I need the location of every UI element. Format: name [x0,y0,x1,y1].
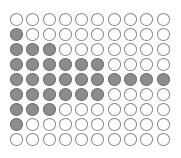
empty-circle [157,58,170,71]
empty-circle [157,43,170,56]
filled-circle [91,88,104,101]
filled-circle [10,118,23,131]
filled-circle [108,73,121,86]
empty-circle [124,88,137,101]
filled-circle [43,43,56,56]
filled-circle [91,73,104,86]
empty-circle [108,103,121,116]
empty-circle [91,133,104,146]
empty-circle [124,118,137,131]
empty-circle [75,118,88,131]
empty-circle [108,118,121,131]
filled-circle [75,73,88,86]
filled-circle [75,58,88,71]
filled-circle [10,58,23,71]
empty-circle [91,118,104,131]
empty-circle [91,28,104,41]
filled-circle [10,43,23,56]
empty-circle [59,43,72,56]
empty-circle [108,28,121,41]
empty-circle [140,43,153,56]
empty-circle [124,28,137,41]
filled-circle [26,58,39,71]
empty-circle [43,13,56,26]
filled-circle [157,73,170,86]
filled-circle [59,88,72,101]
empty-circle [26,13,39,26]
empty-circle [157,118,170,131]
empty-circle [140,133,153,146]
empty-circle [75,133,88,146]
empty-circle [59,13,72,26]
filled-circle [75,88,88,101]
empty-circle [43,28,56,41]
empty-circle [75,43,88,56]
empty-circle [157,88,170,101]
empty-circle [59,103,72,116]
empty-circle [108,88,121,101]
filled-circle [26,103,39,116]
empty-circle [157,133,170,146]
empty-circle [108,58,121,71]
empty-circle [124,133,137,146]
empty-circle [10,133,23,146]
empty-circle [157,28,170,41]
empty-circle [91,43,104,56]
filled-circle [91,58,104,71]
empty-circle [43,118,56,131]
filled-circle [43,73,56,86]
empty-circle [91,13,104,26]
empty-circle [26,28,39,41]
empty-circle [124,43,137,56]
empty-circle [124,58,137,71]
empty-circle [140,103,153,116]
empty-circle [75,13,88,26]
empty-circle [140,28,153,41]
filled-circle [10,88,23,101]
filled-circle [43,58,56,71]
empty-circle [157,103,170,116]
filled-circle [10,103,23,116]
filled-circle [26,73,39,86]
empty-circle [43,133,56,146]
empty-circle [157,13,170,26]
empty-circle [140,13,153,26]
empty-circle [26,118,39,131]
empty-circle [140,58,153,71]
empty-circle [108,133,121,146]
filled-circle [26,88,39,101]
empty-circle [10,13,23,26]
empty-circle [140,118,153,131]
filled-circle [124,73,137,86]
empty-circle [59,118,72,131]
filled-circle [43,88,56,101]
filled-circle [10,28,23,41]
empty-circle [26,133,39,146]
empty-circle [75,28,88,41]
empty-circle [59,28,72,41]
empty-circle [140,88,153,101]
filled-circle [10,73,23,86]
empty-circle [75,103,88,116]
empty-circle [108,43,121,56]
dot-grid [10,13,173,148]
filled-circle [26,43,39,56]
empty-circle [108,13,121,26]
filled-circle [59,73,72,86]
filled-circle [59,58,72,71]
filled-circle [43,103,56,116]
empty-circle [124,103,137,116]
empty-circle [59,133,72,146]
empty-circle [91,103,104,116]
empty-circle [124,13,137,26]
filled-circle [140,73,153,86]
